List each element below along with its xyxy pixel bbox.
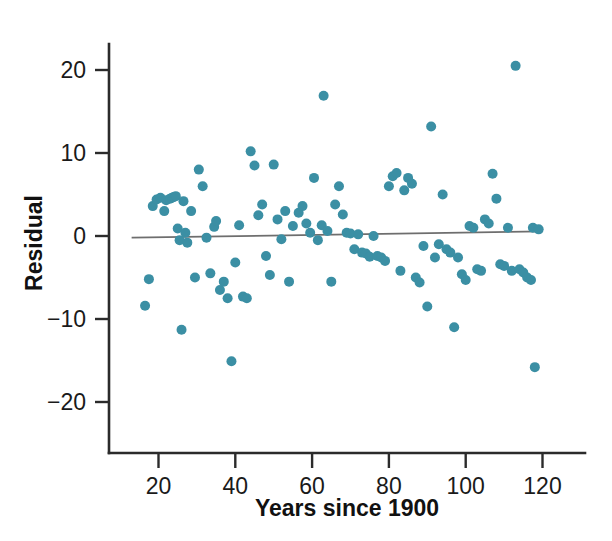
y-tick-label: 0	[73, 223, 86, 249]
scatter-point	[484, 219, 494, 229]
scatter-point	[269, 160, 279, 170]
scatter-point	[198, 181, 208, 191]
scatter-point	[503, 223, 513, 233]
scatter-point	[140, 301, 150, 311]
x-axis-ticks: 20406080100120	[146, 453, 562, 499]
scatter-point	[369, 231, 379, 241]
scatter-point	[399, 185, 409, 195]
scatter-point	[211, 216, 221, 226]
scatter-point	[418, 241, 428, 251]
scatter-point	[426, 121, 436, 131]
scatter-point	[476, 266, 486, 276]
scatter-point	[182, 238, 192, 248]
scatter-point	[246, 146, 256, 156]
scatter-point	[330, 199, 340, 209]
scatter-point	[380, 256, 390, 266]
scatter-point	[253, 210, 263, 220]
y-tick-label: 20	[60, 57, 86, 83]
scatter-point	[178, 196, 188, 206]
scatter-point	[180, 228, 190, 238]
scatter-point	[392, 168, 402, 178]
scatter-point	[449, 322, 459, 332]
scatter-point	[288, 221, 298, 231]
scatter-point	[384, 181, 394, 191]
scatter-point	[219, 277, 229, 287]
scatter-point	[298, 201, 308, 211]
scatter-point	[177, 325, 187, 335]
scatter-point	[353, 229, 363, 239]
x-tick-label: 100	[447, 473, 485, 499]
scatter-point	[530, 362, 540, 372]
scatter-point	[280, 206, 290, 216]
scatter-point	[190, 273, 200, 283]
scatter-point	[234, 220, 244, 230]
x-tick-label: 120	[523, 473, 561, 499]
scatter-point	[468, 223, 478, 233]
scatter-point	[301, 219, 311, 229]
y-tick-label: −20	[47, 389, 86, 415]
scatter-point	[511, 61, 521, 71]
scatter-point	[205, 268, 215, 278]
scatter-point	[326, 277, 336, 287]
scatter-point	[309, 173, 319, 183]
scatter-point	[415, 277, 425, 287]
axes-group	[109, 44, 585, 453]
scatter-point	[230, 258, 240, 268]
scatter-point	[488, 169, 498, 179]
scatter-point	[276, 234, 286, 244]
scatter-plot-figure: 20100−10−20 20406080100120 Residual Year…	[0, 0, 612, 541]
y-tick-label: 10	[60, 140, 86, 166]
scatter-points-group	[140, 61, 544, 372]
x-tick-label: 40	[223, 473, 249, 499]
scatter-point	[526, 275, 536, 285]
scatter-point	[250, 160, 260, 170]
scatter-point	[242, 293, 252, 303]
scatter-point	[273, 214, 283, 224]
scatter-point	[284, 277, 294, 287]
scatter-point	[261, 251, 271, 261]
y-axis-ticks: 20100−10−20	[47, 57, 109, 415]
scatter-point	[313, 235, 323, 245]
scatter-point	[322, 226, 332, 236]
scatter-point	[461, 275, 471, 285]
scatter-point	[257, 199, 267, 209]
y-tick-label: −10	[47, 306, 86, 332]
plot-canvas: 20100−10−20 20406080100120 Residual Year…	[0, 0, 612, 541]
scatter-point	[430, 253, 440, 263]
scatter-point	[453, 253, 463, 263]
scatter-point	[186, 206, 196, 216]
scatter-point	[338, 209, 348, 219]
scatter-point	[305, 228, 315, 238]
scatter-point	[319, 91, 329, 101]
scatter-point	[334, 181, 344, 191]
scatter-point	[194, 165, 204, 175]
scatter-point	[226, 356, 236, 366]
zero-reference-line	[132, 231, 543, 237]
scatter-point	[144, 274, 154, 284]
x-tick-label: 20	[146, 473, 172, 499]
scatter-point	[534, 224, 544, 234]
scatter-point	[438, 190, 448, 200]
scatter-point	[202, 233, 212, 243]
scatter-point	[395, 266, 405, 276]
scatter-point	[265, 270, 275, 280]
x-axis-title: Years since 1900	[255, 495, 439, 521]
scatter-point	[491, 194, 501, 204]
scatter-point	[407, 179, 417, 189]
scatter-point	[159, 206, 169, 216]
y-axis-title: Residual	[21, 195, 47, 291]
scatter-point	[422, 302, 432, 312]
reference-line	[132, 231, 543, 237]
scatter-point	[223, 293, 233, 303]
